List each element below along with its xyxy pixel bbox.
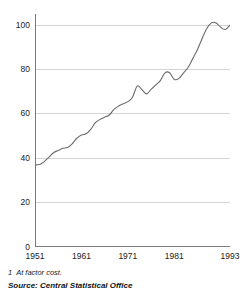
chart-figure: 100 80 60 40 20 0 1951 1961 1971 1981 19… — [0, 0, 242, 294]
y-axis-tick-label-80: 80 — [4, 65, 30, 74]
x-axis-tick-label-1971: 1971 — [112, 252, 144, 261]
y-axis-tick-label-40: 40 — [4, 154, 30, 163]
cropped-title-artifact — [40, 0, 210, 8]
x-axis-tick-label-1961: 1961 — [65, 252, 97, 261]
plot-area — [35, 14, 230, 247]
source-line: Source: Central Statistical Office — [8, 281, 132, 290]
y-axis-tick-label-100: 100 — [4, 21, 30, 30]
y-axis-tick-label-60: 60 — [4, 109, 30, 118]
y-axis-tick-label-20: 20 — [4, 198, 30, 207]
footnote: 1At factor cost. — [8, 268, 62, 277]
line-chart-svg — [35, 14, 230, 247]
gridlines — [35, 25, 230, 203]
footnote-marker: 1 — [8, 268, 12, 277]
data-series-line — [35, 22, 230, 165]
footnote-text: At factor cost. — [16, 268, 62, 277]
x-axis-tick-label-1981: 1981 — [158, 252, 190, 261]
x-axis-tick-label-1951: 1951 — [19, 252, 51, 261]
y-axis-tick-label-0: 0 — [4, 243, 30, 252]
x-axis-tick-label-1993: 1993 — [214, 252, 242, 261]
